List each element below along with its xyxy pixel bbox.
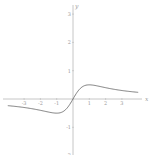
y-tick-label: 2 xyxy=(68,39,71,45)
y-axis-label: y xyxy=(74,2,79,10)
x-tick-label: -1 xyxy=(54,100,59,106)
y-tick-label: -1 xyxy=(66,124,71,130)
x-tick-label: 2 xyxy=(104,100,107,106)
function-plot: -3-2-1123 321-1-2 x y xyxy=(0,0,152,155)
x-axis-label: x xyxy=(145,95,149,102)
x-tick-label: -3 xyxy=(22,100,27,106)
y-tick-label: 3 xyxy=(68,11,71,17)
x-tick-label: -2 xyxy=(38,100,43,106)
x-tick-label: 3 xyxy=(120,100,123,106)
y-tick-label: -2 xyxy=(66,152,71,155)
x-tick-label: 1 xyxy=(88,100,91,106)
y-tick-label: 1 xyxy=(68,68,71,74)
